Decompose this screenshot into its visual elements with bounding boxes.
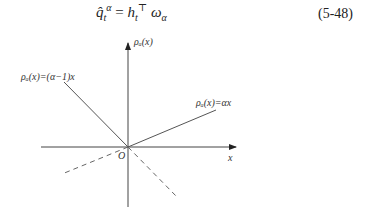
- activation-figure: [0, 0, 366, 215]
- right-solid-line: [128, 110, 216, 147]
- right-dashed-line: [128, 147, 178, 198]
- right-line-label: ρₐ(x)=αx: [196, 97, 231, 108]
- y-axis-label: ρₐ(x): [134, 36, 153, 47]
- origin-label: O: [118, 150, 125, 161]
- left-line-label: ρₐ(x)=(α−1)x: [21, 71, 75, 82]
- left-solid-line: [64, 82, 128, 147]
- x-axis-label: x: [228, 152, 232, 163]
